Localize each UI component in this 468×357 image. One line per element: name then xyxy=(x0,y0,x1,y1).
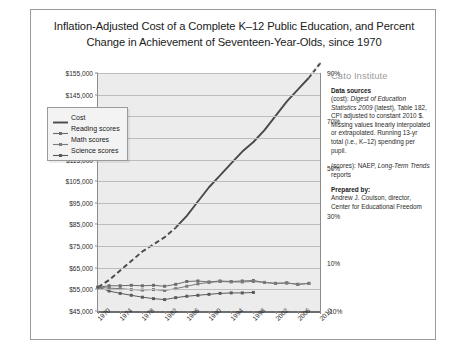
plot-area: $45,000$55,000$65,000$75,000$85,000$95,0… xyxy=(97,73,321,313)
y-axis-tick-mark xyxy=(95,289,98,290)
legend-swatch-icon xyxy=(52,146,69,155)
data-point-marker xyxy=(196,282,199,285)
y-axis-tick-mark xyxy=(95,267,98,268)
side-panel: Cato Institute Data sources (cost): Dige… xyxy=(331,70,431,219)
legend-item-label: Cost xyxy=(71,114,85,121)
data-point-marker xyxy=(119,284,122,287)
legend-swatch-icon xyxy=(52,124,69,133)
page-title: Inflation-Adjusted Cost of a Complete K–… xyxy=(39,18,429,50)
data-point-marker xyxy=(230,280,233,283)
gridline xyxy=(98,181,320,182)
gridline xyxy=(98,160,320,161)
y-axis-tick-label: $105,000 xyxy=(65,178,93,185)
y-axis-tick-mark xyxy=(95,246,98,247)
y-axis-tick-label: $65,000 xyxy=(69,264,93,271)
y-axis-tick-label: $155,000 xyxy=(65,70,93,77)
data-point-marker xyxy=(196,294,199,297)
gridline xyxy=(98,246,320,247)
data-point-marker xyxy=(163,285,166,288)
data-point-marker xyxy=(263,281,266,284)
data-point-marker xyxy=(130,294,133,297)
y-axis-tick-label: $45,000 xyxy=(69,308,93,315)
scores-source-title: Long-Term Trends xyxy=(378,162,430,169)
data-point-marker xyxy=(174,283,177,286)
legend-item-label: Science scores xyxy=(71,147,118,154)
series-cost xyxy=(98,63,320,287)
y-axis-tick-mark xyxy=(95,181,98,182)
data-point-marker xyxy=(241,280,244,283)
data-point-marker xyxy=(174,296,177,299)
cost-source-text: (cost): Digest of Education Statistics 2… xyxy=(331,95,431,155)
legend-item-label: Math scores xyxy=(71,136,109,143)
y-axis-tick-label: $85,000 xyxy=(69,221,93,228)
gridline xyxy=(98,268,320,269)
legend-item-science-scores: Science scores xyxy=(52,145,120,156)
gridline xyxy=(98,95,320,96)
y-axis-tick-label: $55,000 xyxy=(69,286,93,293)
data-point-marker xyxy=(241,291,244,294)
y-axis-tick-mark xyxy=(95,224,98,225)
data-point-marker xyxy=(119,292,122,295)
gridline xyxy=(98,289,320,290)
legend-item-label: Reading scores xyxy=(71,125,120,132)
scores-source-text: (scores): NAEP, Long-Term Trends reports xyxy=(331,162,431,179)
data-point-marker xyxy=(252,291,255,294)
prepared-by-heading: Prepared by: xyxy=(331,186,431,193)
organization-name: Cato Institute xyxy=(331,70,431,81)
data-point-marker xyxy=(252,280,255,283)
data-point-marker xyxy=(130,284,133,287)
y-axis-tick-label: $75,000 xyxy=(69,243,93,250)
data-point-marker xyxy=(185,295,188,298)
scores-source-prefix: (scores): NAEP, xyxy=(331,162,378,169)
cost-source-prefix: (cost): xyxy=(331,95,351,102)
data-point-marker xyxy=(141,284,144,287)
series-layer xyxy=(98,73,320,311)
data-point-marker xyxy=(219,280,222,283)
legend-item-cost: Cost xyxy=(52,112,120,123)
prepared-by-body: Andrew J. Coulson, director, Center for … xyxy=(331,194,431,211)
data-point-marker xyxy=(196,280,199,283)
data-point-marker xyxy=(296,283,299,286)
data-point-marker xyxy=(208,281,211,284)
chart-legend: CostReading scoresMath scoresScience sco… xyxy=(47,107,128,161)
data-point-marker xyxy=(152,297,155,300)
data-point-marker xyxy=(285,281,288,284)
data-point-marker xyxy=(208,293,211,296)
y-axis-tick-mark xyxy=(95,73,98,74)
data-point-marker xyxy=(152,284,155,287)
data-point-marker xyxy=(274,282,277,285)
series-reading-scores xyxy=(97,279,311,289)
legend-item-math-scores: Math scores xyxy=(52,134,120,145)
series-line xyxy=(98,63,320,287)
figure-frame: Inflation-Adjusted Cost of a Complete K–… xyxy=(30,9,436,340)
scores-source-rest: reports xyxy=(331,171,351,178)
legend-swatch-icon xyxy=(52,113,69,122)
y-axis-tick-mark xyxy=(95,202,98,203)
cost-source-rest: (latest), Table 182, CPI adjusted to con… xyxy=(331,104,430,154)
data-point-marker xyxy=(185,285,188,288)
y-axis-tick-label: $95,000 xyxy=(69,199,93,206)
legend-item-reading-scores: Reading scores xyxy=(52,123,120,134)
data-point-marker xyxy=(230,291,233,294)
gridline xyxy=(98,116,320,117)
gridline xyxy=(98,224,320,225)
data-point-marker xyxy=(185,280,188,283)
series-line xyxy=(98,281,309,288)
gridline xyxy=(98,203,320,204)
gridline xyxy=(98,73,320,74)
data-point-marker xyxy=(219,292,222,295)
y-axis-tick-mark xyxy=(95,94,98,95)
legend-swatch-icon xyxy=(52,135,69,144)
data-point-marker xyxy=(307,282,310,285)
y-axis-tick-label: $145,000 xyxy=(65,91,93,98)
gridline xyxy=(98,138,320,139)
data-point-marker xyxy=(141,296,144,299)
data-point-marker xyxy=(163,298,166,301)
secondary-y-axis-tick-label: 10% xyxy=(327,260,340,267)
data-sources-heading: Data sources xyxy=(331,87,431,94)
